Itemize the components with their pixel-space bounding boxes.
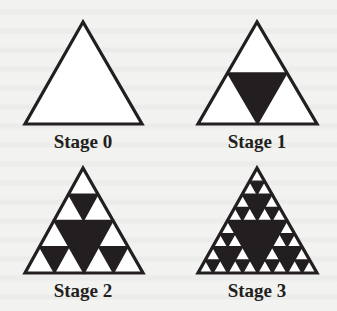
stage-label: Stage 3 — [197, 281, 317, 301]
sierpinski-triangle-stage-3 — [0, 0, 337, 311]
sierpinski-figure: Stage 0 Stage 1 Stage 2 Stage 3 — [0, 0, 337, 311]
